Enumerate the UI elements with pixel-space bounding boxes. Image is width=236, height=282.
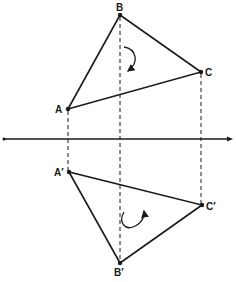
arrow-right-icon	[227, 137, 233, 142]
label-a: A	[55, 104, 62, 115]
point-b	[118, 13, 122, 17]
projection-diagram: B C A A′ C′ B′	[0, 0, 236, 282]
label-a-prime: A′	[54, 167, 64, 178]
lower-triangle	[67, 170, 204, 265]
upper-triangle	[66, 13, 203, 111]
label-b-prime: B′	[114, 267, 124, 278]
point-a-prime	[67, 170, 71, 174]
label-b: B	[116, 2, 123, 13]
reference-line	[2, 137, 233, 142]
clockwise-arrow-icon	[124, 47, 135, 71]
point-c	[199, 70, 203, 74]
counterclockwise-arrow-icon	[122, 211, 144, 228]
point-a	[66, 107, 70, 111]
label-c: C	[205, 67, 212, 78]
label-c-prime: C′	[206, 201, 216, 212]
point-b-prime	[118, 261, 122, 265]
point-c-prime	[200, 203, 204, 207]
